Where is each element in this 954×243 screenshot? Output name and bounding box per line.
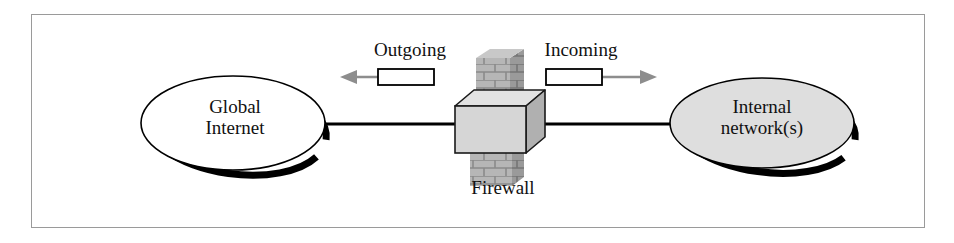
global-internet-label: Global Internet xyxy=(150,96,320,139)
outgoing-arrow-head-icon xyxy=(340,70,357,84)
incoming-label: Incoming xyxy=(526,39,636,60)
internal-network-label-line2: network(s) xyxy=(672,117,852,138)
traffic-incoming[interactable] xyxy=(546,69,657,85)
internal-network-label-line1: Internal xyxy=(672,96,852,117)
incoming-arrow-head-icon xyxy=(640,70,657,84)
incoming-packet xyxy=(546,69,602,85)
firewall-box-front xyxy=(455,106,526,153)
node-firewall[interactable] xyxy=(455,49,545,186)
global-internet-label-line2: Internet xyxy=(150,117,320,138)
firewall-label: Firewall xyxy=(443,177,563,198)
outgoing-packet xyxy=(378,69,434,85)
figure-root: Global Internet Internal network(s) Outg… xyxy=(0,0,954,243)
internal-network-label: Internal network(s) xyxy=(672,96,852,139)
outgoing-label: Outgoing xyxy=(355,39,465,60)
firewall-box xyxy=(455,90,545,153)
global-internet-label-line1: Global xyxy=(150,96,320,117)
traffic-outgoing[interactable] xyxy=(340,69,434,85)
